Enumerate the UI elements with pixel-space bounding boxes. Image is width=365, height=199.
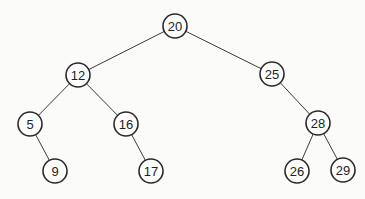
node-label: 26 (290, 164, 304, 179)
edge-28-26 (302, 134, 313, 160)
node-label: 20 (168, 19, 182, 34)
node-label: 9 (51, 164, 58, 179)
tree-node-12: 12 (66, 63, 90, 87)
tree-node-26: 26 (285, 159, 309, 183)
tree-node-25: 25 (260, 62, 284, 86)
tree-node-16: 16 (114, 112, 138, 136)
edge-12-5 (38, 84, 69, 116)
tree-node-29: 29 (331, 158, 355, 182)
nodes-layer: 201225516289172629 (18, 14, 355, 183)
edge-20-12 (89, 31, 165, 69)
tree-diagram: 201225516289172629 (0, 0, 365, 199)
edge-12-16 (86, 84, 117, 116)
tree-node-5: 5 (18, 112, 42, 136)
edges-layer (36, 31, 338, 160)
node-label: 29 (336, 163, 350, 178)
node-label: 16 (119, 117, 133, 132)
tree-node-9: 9 (43, 159, 67, 183)
node-label: 12 (71, 68, 85, 83)
tree-node-20: 20 (163, 14, 187, 38)
tree-node-17: 17 (139, 159, 163, 183)
edge-5-9 (36, 135, 50, 161)
edge-16-17 (132, 135, 146, 161)
edge-20-25 (186, 31, 261, 68)
node-label: 25 (265, 67, 279, 82)
edge-25-28 (280, 83, 310, 115)
node-label: 28 (311, 116, 325, 131)
edge-28-29 (324, 134, 338, 160)
tree-node-28: 28 (306, 111, 330, 135)
node-label: 5 (26, 117, 33, 132)
node-label: 17 (144, 164, 158, 179)
